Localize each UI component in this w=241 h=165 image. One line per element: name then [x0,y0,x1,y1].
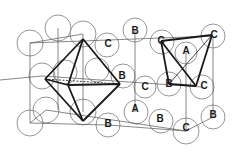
octahedron [45,39,120,121]
atom-label: C [200,81,207,91]
atom-sphere [85,58,109,82]
atom-label: C [157,36,164,46]
atom-label: B [131,26,138,36]
atom-label: C [210,30,217,40]
atom-label: B [165,79,172,89]
atom-label: C [182,123,189,133]
atom-label: A [131,104,138,114]
atom-label: C [141,82,148,92]
atom-label: A [182,46,189,56]
atom-sphere [53,60,77,84]
crystal-lattice-diagram: CBCACBCBCABCBB [0,0,241,165]
atom-label: B [209,110,216,120]
atom-label: B [118,71,125,81]
atom-label: C [104,39,111,49]
atom-label: B [156,114,163,124]
atom-label: B [104,119,111,129]
